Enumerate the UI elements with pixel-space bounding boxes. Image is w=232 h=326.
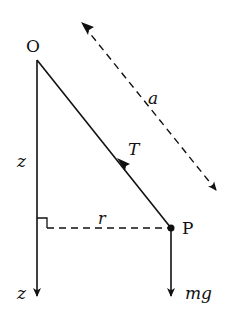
string-line: [37, 60, 171, 228]
length-dimension-line: [84, 26, 216, 190]
pivot-label: O: [26, 36, 40, 56]
tension-label: T: [128, 139, 141, 159]
weight-label: mg: [185, 283, 212, 303]
right-angle-icon: [37, 218, 47, 228]
conical-pendulum-diagram: O P a T r z z mg: [0, 0, 232, 326]
length-label: a: [148, 88, 158, 108]
length-arrow-start-icon: [81, 22, 94, 35]
z-axis-label: z: [16, 283, 27, 303]
height-label: z: [16, 151, 27, 171]
radius-label: r: [98, 209, 107, 228]
bob-label: P: [182, 218, 193, 238]
